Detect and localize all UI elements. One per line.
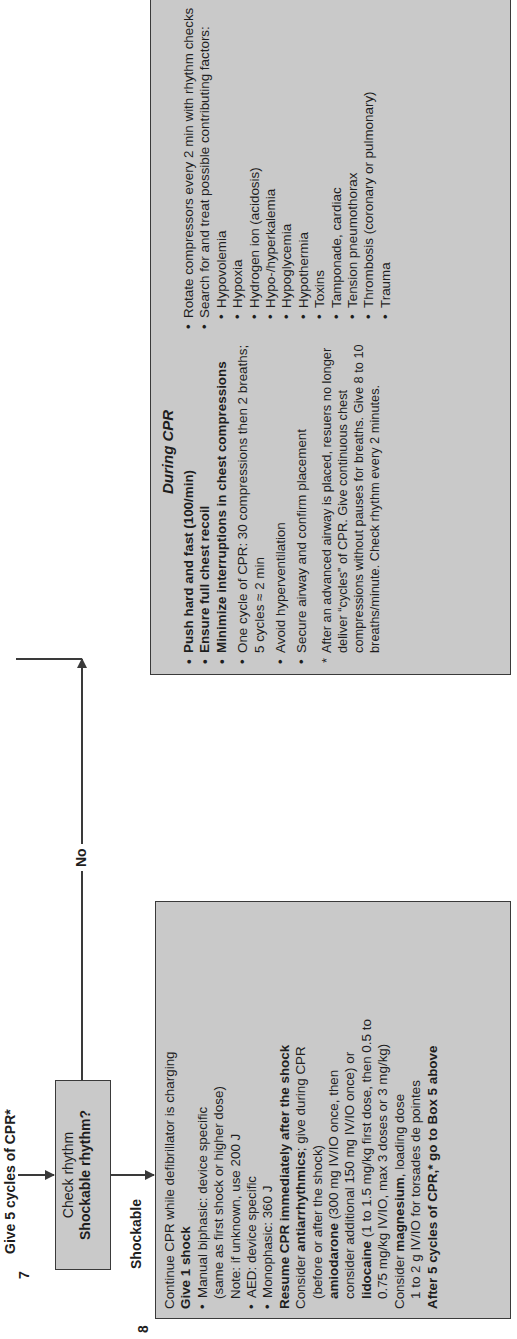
text: (300 mg IV/IO once, then [326,1070,341,1223]
factor-item: Toxins [312,0,328,319]
antiarrhythmics-line: Consider antiarrhythmics; give during CP… [293,910,309,1309]
text: , loading dose [392,1094,407,1177]
during-cpr-title: During CPR [159,410,176,494]
acls-flowchart: Give 5 cycles of CPR* No Shockable 7 Che… [0,0,517,1339]
drug-name: lidocaine [359,1241,374,1299]
advanced-airway-note: After an advanced airway is placed, resu… [319,334,384,664]
box8-line: Note: if unknown, use 200 J [228,910,244,1309]
contributing-factors-list: Hypovolemia Hypoxia Hydrogen ion (acidos… [214,0,394,329]
factor-item: Hypothermia [296,0,312,319]
amiodarone-line: amiodarone (300 mg IV/IO once, then [326,910,342,1309]
cpr-bullet: Search for and treat possible contributi… [197,0,213,329]
cpr-bullet: Avoid hyperventilation [273,334,289,664]
text: Consider [293,1252,308,1309]
text: (1 to 1.5 mg/kg first dose, then 0.5 to [359,1019,374,1241]
box8-line: Monophasic: 360 J [260,910,276,1309]
box8-line: Give 1 shock [178,910,194,1309]
box8-final-instruction: After 5 cycles of CPR,* go to Box 5 abov… [425,910,441,1309]
during-cpr-left-column: Push hard and fast (100/min) Ensure full… [181,334,384,664]
box8-number: 8 [135,1325,151,1333]
box8-line: (same as first shock or higher dose) [211,910,227,1309]
drug-name: amiodarone [326,1223,341,1299]
cpr-bullet: Minimize interruptions in chest compress… [214,334,230,664]
during-cpr-right-column: Rotate compressors every 2 min with rhyt… [181,0,394,329]
no-label: No [73,844,89,871]
box8-line: (before or after the shock) [310,910,326,1309]
box8-line: Manual biphasic: device specific [195,910,211,1309]
factor-item: Hypoxia [230,0,246,319]
factor-item: Tamponade, cardiac [329,0,345,319]
cpr-bullet: Rotate compressors every 2 min with rhyt… [181,0,197,329]
factor-item: Hypoglycemia [279,0,295,319]
box8-line: 1 to 2 g IV/IO for torsades de pointes [408,910,424,1309]
factor-item: Trauma [378,0,394,319]
cpr-bullet: Secure airway and confirm placement [294,334,310,664]
box8-line: Resume CPR immediately after the shock [277,910,293,1309]
during-cpr-box: During CPR Push hard and fast (100/min) … [150,0,511,675]
text: Consider [392,1252,407,1309]
box8-shock: Continue CPR while defibrillator is char… [155,901,511,1319]
box7-number: 7 [16,1271,32,1279]
factor-item: Hypovolemia [214,0,230,319]
box7-line1: Check rhythm [60,1081,77,1269]
box8-line: Continue CPR while defibrillator is char… [162,910,178,1309]
shockable-label: Shockable [128,1199,144,1269]
factor-item: Thrombosis (coronary or pulmonary) [361,0,377,319]
lidocaine-line: lidocaine (1 to 1.5 mg/kg first dose, th… [359,910,375,1309]
drug-class: antiarrhythmics [293,1151,308,1251]
cpr-bullet: Push hard and fast (100/min) [181,334,197,664]
box7-check-rhythm: Check rhythm Shockable rhythm? [55,1080,111,1270]
text: ; give during CPR [293,1046,308,1151]
box8-line: 0.75 mg/kg IV/IO, max 3 doses or 3 mg/kg… [375,910,391,1309]
box8-line: AED: device specific [244,910,260,1309]
box8-line: consider additional 150 mg IV/IO once) o… [342,910,358,1309]
give-cpr-label: Give 5 cycles of CPR* [2,1109,18,1254]
magnesium-line: Consider magnesium, loading dose [392,910,408,1309]
cpr-bullet: One cycle of CPR: 30 compressions then 2… [235,334,268,664]
factor-item: Tension pneumothorax [345,0,361,319]
factor-item: Hypo-/hyperkalemia [263,0,279,319]
factor-item: Hydrogen ion (acidosis) [247,0,263,319]
box7-question: Shockable rhythm? [77,1081,94,1269]
drug-name: magnesium [392,1177,407,1251]
cpr-bullet: Ensure full chest recoil [197,334,213,664]
